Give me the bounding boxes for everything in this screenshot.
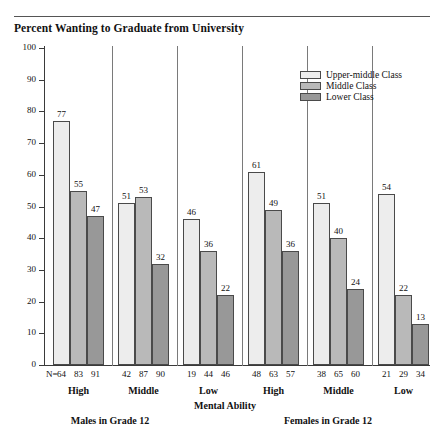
bar	[347, 289, 364, 365]
bar	[118, 203, 135, 365]
bar-value-label: 24	[345, 278, 367, 287]
legend-swatch-icon	[300, 82, 321, 90]
bar-value-label: 40	[328, 227, 350, 236]
bar	[135, 197, 152, 365]
bar	[152, 264, 169, 365]
panel-caption-females: Females in Grade 12	[248, 415, 408, 426]
group-label: Middle	[109, 385, 179, 396]
group-label: Middle	[304, 385, 374, 396]
bar-value-label: 13	[410, 313, 432, 322]
bar	[282, 251, 299, 365]
bar-value-label: 54	[376, 183, 398, 192]
bar-value-label: 22	[393, 284, 415, 293]
bar	[200, 251, 217, 365]
bar-value-label: 32	[150, 253, 172, 262]
bar	[53, 121, 70, 365]
bar	[87, 216, 104, 365]
plot-area: 0102030405060708090100 77554751533246362…	[0, 0, 446, 438]
bar-value-label: 36	[198, 240, 220, 249]
legend-label: Middle Class	[326, 81, 376, 91]
bar-value-label: 22	[215, 284, 237, 293]
n-count-value: 46	[215, 369, 237, 379]
bar-value-label: 53	[133, 186, 155, 195]
bar	[70, 191, 87, 365]
legend-label: Lower Class	[326, 92, 374, 102]
group-label: Low	[369, 385, 439, 396]
n-count-value: 60	[345, 369, 367, 379]
group-label: High	[44, 385, 114, 396]
n-count-value: 91	[85, 369, 107, 379]
legend-swatch-icon	[300, 93, 321, 101]
n-count-value: 90	[150, 369, 172, 379]
bar-value-label: 36	[280, 240, 302, 249]
bar	[412, 324, 429, 365]
bar-value-label: 61	[246, 161, 268, 170]
bar-value-label: 77	[51, 110, 73, 119]
group-label: High	[239, 385, 309, 396]
x-axis-title: Mental Ability	[160, 400, 290, 411]
chart-root: Percent Wanting to Graduate from Univers…	[0, 0, 446, 438]
n-count-value: 34	[410, 369, 432, 379]
bar	[378, 194, 395, 365]
bar-value-label: 46	[181, 208, 203, 217]
group-label: Low	[174, 385, 244, 396]
legend-swatch-icon	[300, 71, 321, 79]
bar	[395, 295, 412, 365]
n-counts-row: N= 648391428790194446486357386560212934	[0, 369, 446, 381]
bar-value-label: 55	[68, 180, 90, 189]
bar-value-label: 49	[263, 199, 285, 208]
y-axis-tick	[39, 365, 44, 366]
bar	[265, 210, 282, 365]
bar	[330, 238, 347, 365]
bar-value-label: 51	[311, 192, 333, 201]
n-count-value: 57	[280, 369, 302, 379]
panel-caption-males: Males in Grade 12	[30, 415, 190, 426]
legend-label: Upper-middle Class	[326, 70, 402, 80]
bar	[217, 295, 234, 365]
bar-value-label: 47	[85, 205, 107, 214]
